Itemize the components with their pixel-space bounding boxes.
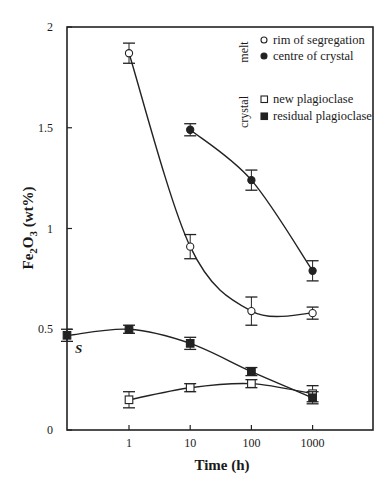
x-tick-label: 100: [242, 436, 260, 450]
y-tick-label: 0: [47, 423, 53, 437]
y-axis-label: Fe2O3 (wt%): [20, 186, 39, 269]
y-tick-label: 1.5: [38, 121, 53, 135]
x-tick-label: 1000: [301, 436, 325, 450]
legend-open-circle-icon: [261, 37, 267, 43]
legend-group-crystal: crystal: [237, 95, 251, 128]
legend-entry-label: centre of crystal: [273, 49, 354, 63]
filled-circle-marker: [309, 267, 316, 274]
filled-square-marker: [248, 368, 256, 376]
x-tick-label: 10: [184, 436, 196, 450]
open-square-marker: [186, 384, 194, 392]
filled-circle-marker: [248, 177, 255, 184]
open-square-marker: [248, 380, 256, 388]
filled-circle-marker: [187, 126, 194, 133]
legend: rim of segregationcentre of crystalnew p…: [237, 33, 372, 128]
legend-entry-label: new plagioclase: [273, 92, 354, 106]
plot-frame: [67, 27, 373, 430]
legend-filled-circle-icon: [261, 53, 267, 59]
filled-square-marker: [63, 331, 71, 339]
y-tick-label: 2: [47, 20, 53, 34]
x-axis-label: Time (h): [194, 457, 249, 474]
open-square-marker: [125, 396, 133, 404]
legend-entry-label: residual plagioclase: [273, 109, 372, 123]
open-circle-marker: [125, 50, 132, 57]
open-circle-marker: [248, 308, 255, 315]
y-tick-label: 1: [47, 222, 53, 236]
legend-entry-label: rim of segregation: [273, 33, 365, 47]
filled-square-marker: [186, 340, 194, 348]
filled-square-marker: [125, 325, 133, 333]
y-tick-label: 0.5: [38, 322, 53, 336]
open-circle-marker: [187, 243, 194, 250]
legend-filled-square-icon: [261, 113, 268, 120]
fit-curve-filled-circle: [190, 130, 312, 271]
legend-open-square-icon: [261, 96, 268, 103]
filled-square-marker: [309, 394, 317, 402]
start-label-s: S: [75, 341, 82, 356]
legend-group-melt: melt: [237, 41, 251, 63]
open-circle-marker: [309, 310, 316, 317]
x-tick-label: 1: [126, 436, 132, 450]
fe2o3-vs-time-chart: 00.511.521101001000 S rim of segregation…: [0, 0, 389, 493]
